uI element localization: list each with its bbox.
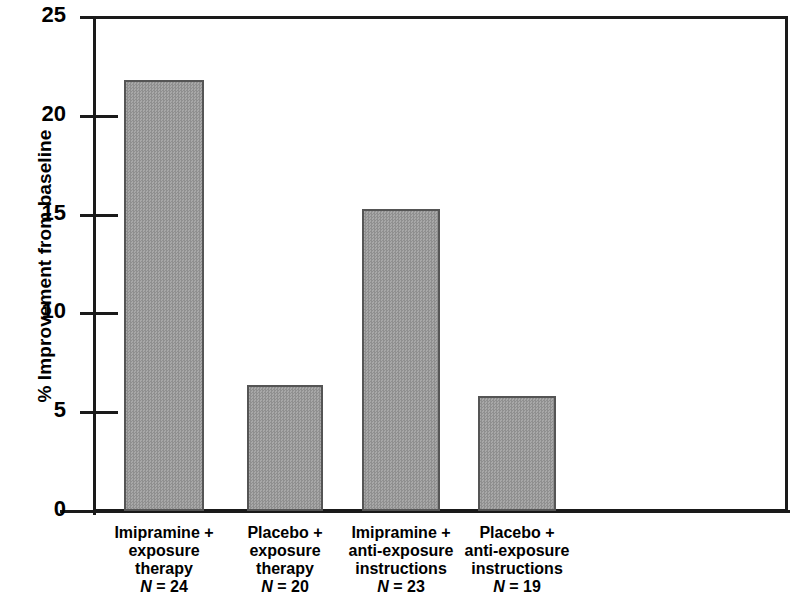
sample-size-symbol: N xyxy=(261,578,273,595)
sample-size-value: = 19 xyxy=(505,578,541,595)
bar xyxy=(124,80,204,511)
x-axis-category-labels: Imipramine +exposuretherapyN = 24Placebo… xyxy=(0,516,802,605)
sample-size-label: N = 19 xyxy=(412,578,622,596)
category-label-line: instructions xyxy=(412,560,622,578)
bar xyxy=(247,385,323,511)
category-label-line: anti-exposure xyxy=(412,542,622,560)
sample-size-symbol: N xyxy=(493,578,505,595)
category-label-line: Placebo + xyxy=(412,524,622,542)
sample-size-symbol: N xyxy=(377,578,389,595)
bars-layer xyxy=(0,0,802,605)
bar xyxy=(362,209,440,511)
bar xyxy=(478,396,556,511)
bar-chart-figure: % Improvement from baseline 2520151050 I… xyxy=(0,0,802,605)
x-axis-category-label: Placebo +anti-exposureinstructionsN = 19 xyxy=(412,524,622,596)
sample-size-symbol: N xyxy=(140,578,152,595)
